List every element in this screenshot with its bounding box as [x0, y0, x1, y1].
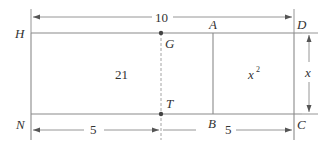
- top-dimension-label: 10: [155, 10, 168, 25]
- point-G-label: G: [165, 36, 175, 51]
- bottom-left-dimension-label: 5: [90, 122, 97, 137]
- geometry-diagram: 10 x 5 5 21 x 2 H G A D N T B C: [0, 0, 332, 149]
- right-dimension-label: x: [304, 65, 311, 80]
- point-N-label: N: [15, 117, 26, 132]
- right-area-label: x: [247, 67, 254, 82]
- point-G-dot: [159, 31, 163, 35]
- point-D-label: D: [296, 17, 307, 32]
- left-area-label: 21: [115, 67, 128, 82]
- bottom-right-dimension-label: 5: [225, 122, 232, 137]
- point-T-label: T: [166, 96, 174, 111]
- point-H-label: H: [14, 26, 25, 41]
- point-A-label: A: [208, 17, 217, 32]
- point-B-label: B: [208, 116, 216, 131]
- point-C-label: C: [297, 117, 306, 132]
- point-T-dot: [159, 112, 163, 116]
- right-area-exponent: 2: [256, 65, 260, 74]
